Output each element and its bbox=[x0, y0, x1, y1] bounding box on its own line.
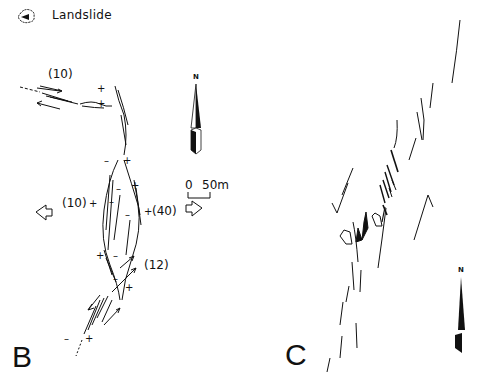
north-label: N bbox=[458, 266, 464, 274]
panel-letter-c: C bbox=[285, 338, 307, 372]
north-arrow-c bbox=[455, 277, 465, 353]
panel-c-fracture-map bbox=[0, 0, 489, 384]
